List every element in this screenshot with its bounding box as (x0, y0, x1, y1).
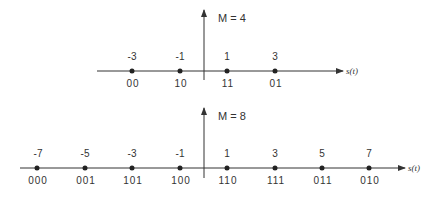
m8-point-code: 110 (219, 175, 238, 186)
m4-point-value: -3 (128, 51, 137, 62)
m8-point-code: 101 (123, 175, 143, 186)
m8-point: 1 110 (219, 148, 238, 186)
m4-point: -3 00 (126, 51, 139, 89)
m8-point-value: -5 (81, 148, 90, 159)
m8-point: -7 000 (28, 148, 48, 186)
m4-point-value: -1 (176, 51, 185, 62)
m8-point: 7 010 (360, 148, 380, 186)
m8-title: M = 8 (218, 110, 246, 122)
m4-title: M = 4 (218, 12, 246, 24)
m8-point-value: -1 (176, 148, 185, 159)
m4-point: 3 01 (269, 51, 282, 89)
m8-point-code: 011 (314, 175, 333, 186)
m8-point: -1 100 (171, 148, 191, 186)
m8-point-value: 7 (366, 148, 372, 159)
m4-point-value: 1 (224, 51, 230, 62)
m8-point-value: 1 (224, 148, 230, 159)
m8-point: 3 111 (267, 148, 285, 186)
m8-point-code: 010 (360, 175, 380, 186)
m4-point-code: 01 (269, 78, 282, 89)
m8-point: 5 011 (314, 148, 333, 186)
m8-point-value: -7 (34, 148, 43, 159)
m8-axis-label: s(t) (408, 163, 420, 173)
m8-point: -5 001 (76, 148, 96, 186)
m8-point-code: 111 (267, 175, 285, 186)
m8-point-value: 3 (272, 148, 278, 159)
m4-point: -1 10 (174, 51, 187, 89)
m4-point-value: 3 (272, 51, 278, 62)
m8-point-code: 000 (28, 175, 48, 186)
m4-axis-label: s(t) (346, 66, 358, 76)
m4-diagram: M = 4 s(t) -3 00 -1 10 1 11 3 01 (97, 10, 358, 89)
m8-point-value: 5 (319, 148, 325, 159)
m4-point: 1 11 (222, 51, 234, 89)
m8-point: -3 101 (123, 148, 143, 186)
m8-point-value: -3 (128, 148, 137, 159)
m4-point-code: 00 (126, 78, 139, 89)
m8-point-code: 100 (171, 175, 191, 186)
pam-constellation-diagram: M = 4 s(t) -3 00 -1 10 1 11 3 01 M = 8 s… (0, 0, 433, 200)
m8-diagram: M = 8 s(t) -7 000 -5 001 -3 101 -1 100 1… (20, 108, 420, 186)
m4-point-code: 11 (222, 78, 234, 89)
m8-point-code: 001 (76, 175, 96, 186)
m4-point-code: 10 (174, 78, 187, 89)
